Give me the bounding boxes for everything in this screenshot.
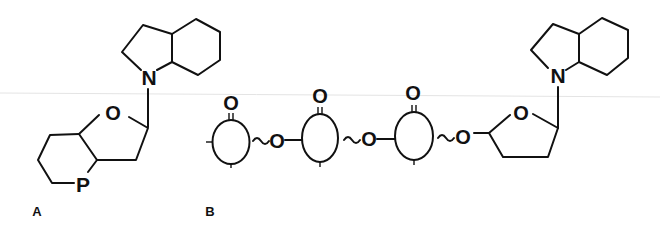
wavy-linker-3 xyxy=(438,135,454,141)
wavy-linker-1 xyxy=(253,138,269,144)
oval-subunit-2 xyxy=(302,107,338,167)
carbonyl-oxygen-2: O xyxy=(312,85,328,107)
wavy-linker-2 xyxy=(344,137,360,143)
nitrogen-atom-b: N xyxy=(550,64,565,87)
structure-a: N O P A xyxy=(32,19,220,219)
bridge-oxygen-2: O xyxy=(361,128,377,150)
bridge-oxygen-3: O xyxy=(455,126,471,148)
bridge-oxygen-1: O xyxy=(269,130,285,152)
indole-ring-a xyxy=(122,19,220,75)
structure-b: O O O O O O O xyxy=(205,18,628,219)
carbonyl-oxygen-1: O xyxy=(223,92,239,114)
panel-label-a: A xyxy=(32,204,42,219)
nitrogen-atom-a: N xyxy=(141,66,156,89)
indole-ring-b xyxy=(531,18,628,75)
panel-label-b: B xyxy=(205,204,214,219)
scan-artifact-line xyxy=(0,93,660,97)
oval-subunit-1 xyxy=(206,113,250,168)
phosphorus-atom-a: P xyxy=(76,173,90,196)
ring-oxygen-b: O xyxy=(513,102,529,124)
carbonyl-oxygen-3: O xyxy=(405,82,421,104)
oval-subunit-3 xyxy=(395,105,433,165)
chemical-structure-figure: N O P A O O xyxy=(0,0,660,226)
oxygen-atom-a: O xyxy=(105,102,121,124)
